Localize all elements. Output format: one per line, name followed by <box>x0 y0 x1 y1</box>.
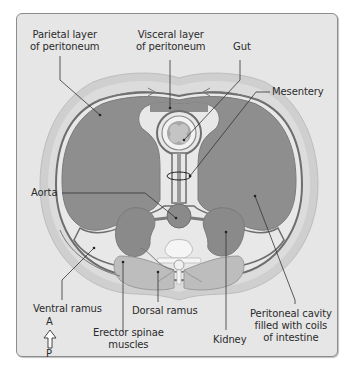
label-dorsal-ramus: Dorsal ramus <box>132 305 198 317</box>
label-parietal-peritoneum: Parietal layer of peritoneum <box>30 29 100 53</box>
orientation-posterior: P <box>46 348 52 360</box>
orientation-anterior: A <box>46 316 53 328</box>
label-visceral-peritoneum: Visceral layer of peritoneum <box>136 29 206 53</box>
label-peritoneal-cavity: Peritoneal cavity filled with coils of i… <box>250 308 332 344</box>
up-arrow-outline-icon <box>44 330 56 348</box>
vertebra <box>165 240 192 259</box>
label-erector-spinae: Erector spinae muscles <box>93 327 164 351</box>
label-kidney: Kidney <box>213 334 247 346</box>
label-aorta: Aorta <box>31 187 57 199</box>
label-ventral-ramus: Ventral ramus <box>33 303 102 315</box>
aorta <box>167 204 191 228</box>
label-mesentery: Mesentery <box>272 86 324 98</box>
label-gut: Gut <box>233 41 251 53</box>
